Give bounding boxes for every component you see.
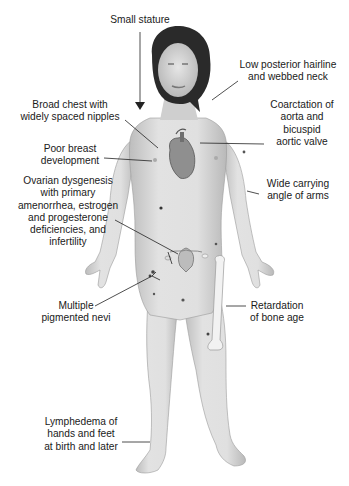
legs bbox=[136, 298, 246, 473]
head bbox=[152, 26, 211, 112]
label-wide-carrying-angle: Wide carrying angle of arms bbox=[260, 178, 336, 203]
label-multiple-pigmented-nevi: Multiple pigmented nevi bbox=[36, 300, 116, 325]
label-retardation-of-bone-age: Retardation of bone age bbox=[244, 300, 310, 325]
label-lymphedema: Lymphedema of hands and feet at birth an… bbox=[38, 416, 124, 453]
label-ovarian-dysgenesis: Ovarian dysgenesis with primary amenorrh… bbox=[12, 175, 124, 249]
label-poor-breast-development: Poor breast development bbox=[32, 143, 108, 168]
nipple-right bbox=[214, 156, 218, 160]
nipple-left bbox=[153, 158, 157, 162]
label-broad-chest: Broad chest with widely spaced nipples bbox=[14, 99, 126, 124]
label-coarctation-of-aorta: Coarctation of aorta and bicuspid aortic… bbox=[262, 99, 342, 148]
label-small-stature: Small stature bbox=[100, 14, 180, 26]
label-low-posterior-hairline: Low posterior hairline and webbed neck bbox=[228, 59, 348, 84]
